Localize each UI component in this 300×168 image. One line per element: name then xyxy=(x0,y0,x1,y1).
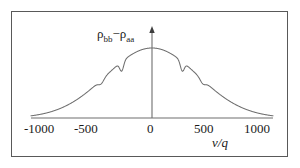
y-axis-label: ρbb−ρaa xyxy=(97,27,134,44)
figure-container: ρbb−ρaa -1000 -500 0 500 1000 v/q xyxy=(0,0,300,168)
x-tick-label-neg500: -500 xyxy=(74,122,98,135)
x-axis-title: v/q xyxy=(212,136,228,149)
y-axis-minus: − xyxy=(113,26,120,41)
y-axis-arrowhead xyxy=(149,26,154,33)
x-tick-label-500: 500 xyxy=(194,122,214,135)
x-tick-label-neg1000: -1000 xyxy=(24,122,54,135)
x-tick-label-zero: 0 xyxy=(147,122,154,135)
y-axis-sub-bb: bb xyxy=(104,34,113,44)
axes-group xyxy=(31,26,273,118)
chart-canvas xyxy=(0,0,300,168)
x-tick-label-1000: 1000 xyxy=(244,122,270,135)
y-axis-sub-aa: aa xyxy=(126,34,134,44)
